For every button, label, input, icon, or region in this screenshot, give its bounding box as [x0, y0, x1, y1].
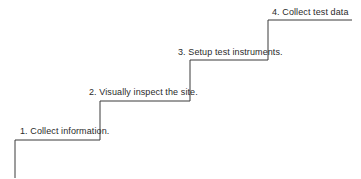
- step-4-label: 4. Collect test data: [272, 7, 349, 17]
- step-1-label: 1. Collect information.: [20, 126, 109, 136]
- staircase-diagram: 1. Collect information. 2. Visually insp…: [0, 0, 361, 179]
- step-3-label: 3. Setup test instruments.: [178, 47, 283, 57]
- step-2-label: 2. Visually inspect the site.: [89, 87, 198, 97]
- staircase-path: [15, 20, 352, 178]
